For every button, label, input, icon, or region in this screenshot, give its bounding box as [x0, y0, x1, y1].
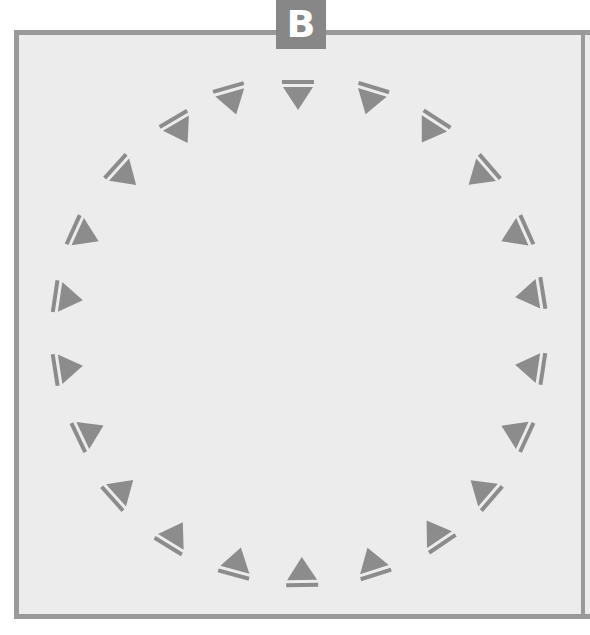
frame-right-edge	[581, 30, 585, 619]
panel-label-badge: B	[276, 0, 326, 49]
diagram-frame	[14, 30, 590, 619]
